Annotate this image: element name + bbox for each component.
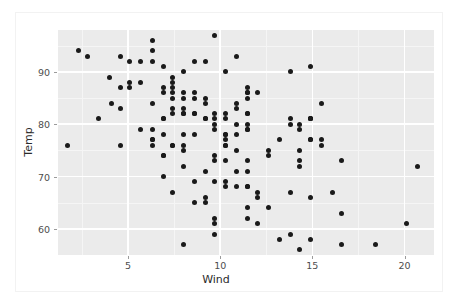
data-point (223, 184, 228, 189)
x-tick-label: 20 (398, 260, 410, 271)
data-point (255, 221, 260, 226)
x-tick-mark (220, 256, 221, 259)
data-point (255, 90, 260, 95)
data-point (170, 190, 175, 195)
x-axis-title-text: Wind (202, 273, 230, 286)
data-point (330, 190, 335, 195)
data-point (212, 232, 217, 237)
data-point (373, 242, 378, 247)
data-point (234, 101, 239, 106)
data-point (245, 111, 250, 116)
data-point (245, 184, 250, 189)
data-point (245, 205, 250, 210)
data-point (297, 148, 302, 153)
gridline-minor-x (358, 30, 359, 255)
data-point (203, 200, 208, 205)
y-tick-label: 60 (38, 223, 50, 234)
data-point (118, 85, 123, 90)
data-point (223, 158, 228, 163)
data-point (255, 190, 260, 195)
data-point (203, 169, 208, 174)
y-tick-mark (54, 229, 57, 230)
data-point (161, 64, 166, 69)
data-point (138, 80, 143, 85)
data-point (170, 111, 175, 116)
data-point (118, 106, 123, 111)
y-tick-mark (54, 72, 57, 73)
plot-panel (58, 30, 434, 255)
data-point (339, 242, 344, 247)
gridline-minor-x (266, 30, 267, 255)
y-tick-label: 70 (38, 171, 50, 182)
y-tick-mark (54, 124, 57, 125)
data-point (245, 122, 250, 127)
data-point (170, 96, 175, 101)
data-point (277, 237, 282, 242)
data-point (181, 90, 186, 95)
data-point (245, 169, 250, 174)
data-point (212, 122, 217, 127)
x-tick-label: 5 (125, 260, 131, 271)
data-point (96, 116, 101, 121)
data-point (150, 59, 155, 64)
data-point (212, 221, 217, 226)
data-point (181, 132, 186, 137)
data-point (118, 143, 123, 148)
data-point (138, 59, 143, 64)
data-point (170, 75, 175, 80)
data-point (234, 132, 239, 137)
data-point (245, 96, 250, 101)
x-tick-mark (128, 256, 129, 259)
x-axis-title: Wind (0, 273, 460, 286)
data-point (288, 190, 293, 195)
data-point (234, 122, 239, 127)
data-point (192, 179, 197, 184)
x-tick-label: 10 (214, 260, 226, 271)
data-point (181, 111, 186, 116)
data-point (245, 216, 250, 221)
data-point (127, 59, 132, 64)
y-tick-label: 80 (38, 119, 50, 130)
data-point (297, 247, 302, 252)
data-point (212, 116, 217, 121)
data-point (288, 116, 293, 121)
gridline-major-y (58, 176, 434, 178)
data-point (85, 54, 90, 59)
data-point (339, 211, 344, 216)
data-point (192, 132, 197, 137)
data-point (319, 137, 324, 142)
data-point (266, 205, 271, 210)
gridline-minor-x (82, 30, 83, 255)
data-point (192, 90, 197, 95)
data-point (339, 158, 344, 163)
data-point (138, 127, 143, 132)
data-point (245, 127, 250, 132)
data-point (223, 116, 228, 121)
data-point (212, 179, 217, 184)
data-point (76, 48, 81, 53)
y-tick-label: 90 (38, 66, 50, 77)
data-point (297, 122, 302, 127)
data-point (150, 143, 155, 148)
data-point (181, 96, 186, 101)
data-point (203, 59, 208, 64)
scatter-plot: 510152060708090 Wind Temp (0, 0, 460, 308)
data-point (192, 96, 197, 101)
data-point (245, 158, 250, 163)
data-point (288, 122, 293, 127)
x-tick-mark (312, 256, 313, 259)
data-point (192, 200, 197, 205)
data-point (234, 54, 239, 59)
data-point (415, 164, 420, 169)
x-tick-mark (405, 256, 406, 259)
data-point (319, 101, 324, 106)
data-point (170, 143, 175, 148)
data-point (234, 169, 239, 174)
data-point (255, 195, 260, 200)
data-point (297, 158, 302, 163)
data-point (223, 69, 228, 74)
data-point (150, 137, 155, 142)
data-point (170, 85, 175, 90)
data-point (109, 101, 114, 106)
gridline-major-y (58, 71, 434, 73)
